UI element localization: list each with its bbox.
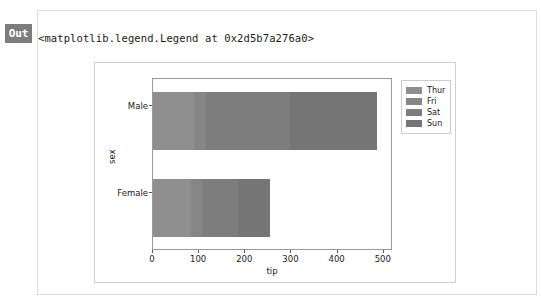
x-tick-mark-0 — [152, 250, 153, 253]
legend-item-fri[interactable]: Fri — [406, 96, 445, 107]
plot-axes — [152, 78, 392, 250]
output-prompt-label: Out — [5, 24, 32, 43]
legend-swatch-thur — [406, 87, 422, 94]
x-tick-label-500: 500 — [375, 254, 391, 264]
output-area: <matplotlib.legend.Legend at 0x2d5b7a276… — [37, 10, 537, 295]
bar-segment-fri-female[interactable] — [191, 179, 203, 237]
bar-segment-sat-female[interactable] — [202, 179, 238, 237]
stacked-bar-male[interactable] — [153, 92, 377, 150]
stacked-bar-female[interactable] — [153, 179, 270, 237]
bar-segment-sun-female[interactable] — [238, 179, 270, 237]
x-tick-mark-500 — [383, 250, 384, 253]
legend-label-fri: Fri — [427, 97, 437, 106]
legend-swatch-sun — [406, 120, 422, 127]
x-tick-mark-100 — [198, 250, 199, 253]
y-axis-label: sex — [107, 149, 117, 164]
bar-segment-thur-female[interactable] — [153, 179, 191, 237]
x-axis-label: tip — [266, 266, 277, 276]
legend-repr-text: <matplotlib.legend.Legend at 0x2d5b7a276… — [38, 32, 314, 44]
legend-label-thur: Thur — [427, 86, 445, 95]
x-tick-mark-400 — [337, 250, 338, 253]
y-tick-label-male: Male — [95, 101, 148, 111]
bar-segment-sat-male[interactable] — [206, 92, 290, 150]
bar-segment-fri-male[interactable] — [194, 92, 206, 150]
legend-swatch-sat — [406, 109, 422, 116]
legend-label-sun: Sun — [427, 119, 442, 128]
legend-item-sat[interactable]: Sat — [406, 107, 445, 118]
legend-swatch-fri — [406, 98, 422, 105]
x-tick-label-400: 400 — [328, 254, 344, 264]
x-tick-label-100: 100 — [190, 254, 206, 264]
legend-item-thur[interactable]: Thur — [406, 85, 445, 96]
x-tick-label-300: 300 — [282, 254, 298, 264]
x-tick-label-0: 0 — [149, 254, 154, 264]
y-tick-label-female: Female — [95, 188, 148, 198]
notebook-output-cell: Out <matplotlib.legend.Legend at 0x2d5b7… — [0, 0, 541, 303]
legend-label-sat: Sat — [427, 108, 440, 117]
matplotlib-figure: sex Male Female 0100200300400500 tip Thu… — [94, 62, 456, 283]
x-tick-mark-200 — [244, 250, 245, 253]
x-tick-mark-300 — [290, 250, 291, 253]
x-tick-label-200: 200 — [236, 254, 252, 264]
bar-segment-sun-male[interactable] — [290, 92, 378, 150]
bar-segment-thur-male[interactable] — [153, 92, 194, 150]
chart-legend[interactable]: ThurFriSatSun — [401, 80, 451, 134]
legend-item-sun[interactable]: Sun — [406, 118, 445, 129]
